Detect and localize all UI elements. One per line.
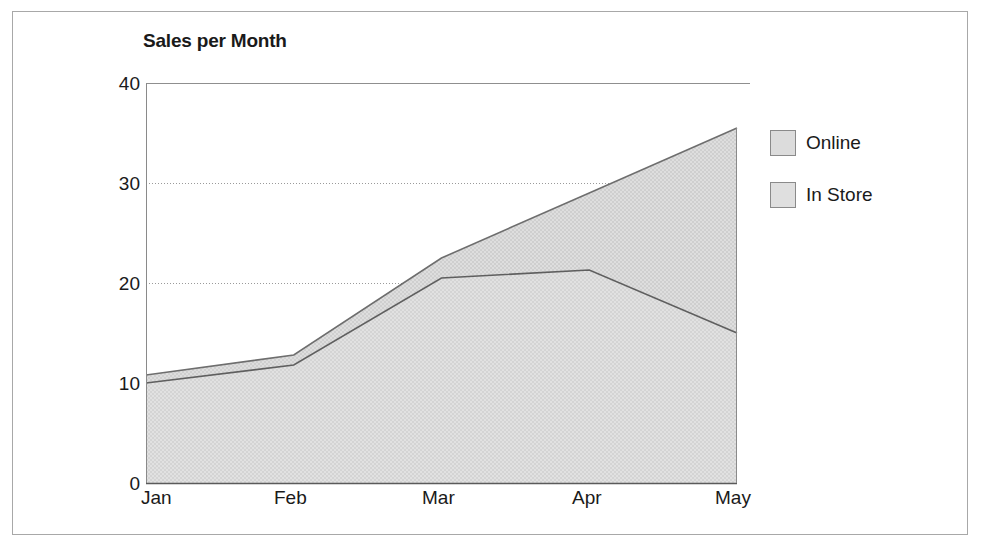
- chart-legend: Online In Store: [770, 128, 950, 232]
- x-tick-apr: Apr: [572, 488, 602, 507]
- legend-label-in-store: In Store: [806, 184, 873, 206]
- legend-item-in-store[interactable]: In Store: [770, 180, 950, 210]
- legend-swatch-online-icon: [770, 130, 796, 156]
- x-tick-mar: Mar: [422, 488, 455, 507]
- legend-item-online[interactable]: Online: [770, 128, 950, 158]
- x-tick-jan: Jan: [141, 488, 172, 507]
- x-tick-feb: Feb: [274, 488, 307, 507]
- legend-swatch-in-store-icon: [770, 182, 796, 208]
- x-axis-tick-labels: Jan Feb Mar Apr May: [0, 0, 982, 552]
- x-tick-may: May: [715, 488, 751, 507]
- legend-label-online: Online: [806, 132, 861, 154]
- chart-figure: Sales per Month: [0, 0, 982, 552]
